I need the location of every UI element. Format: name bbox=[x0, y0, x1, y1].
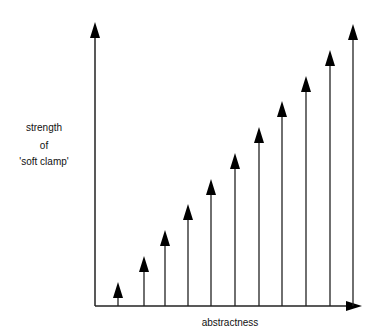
y-axis-arrowhead-icon bbox=[90, 22, 100, 38]
x-axis-label: abstractness bbox=[170, 317, 290, 328]
strength-arrowhead-icon bbox=[301, 76, 311, 92]
strength-arrows bbox=[113, 24, 358, 306]
strength-arrowhead-icon bbox=[325, 50, 335, 66]
strength-arrowhead-icon bbox=[183, 204, 193, 220]
strength-arrowhead-icon bbox=[113, 282, 123, 298]
strength-arrowhead-icon bbox=[230, 153, 240, 169]
axes bbox=[90, 22, 362, 311]
strength-arrowhead-icon bbox=[277, 101, 287, 117]
x-axis-arrowhead-icon bbox=[346, 301, 362, 311]
strength-arrowhead-icon bbox=[254, 127, 264, 143]
y-axis-label-line-2: of bbox=[4, 140, 84, 151]
strength-arrowhead-icon bbox=[160, 230, 170, 246]
y-axis-label-line-3: 'soft clamp' bbox=[4, 156, 84, 167]
y-axis-label-line-1: strength bbox=[4, 122, 84, 133]
soft-clamp-diagram bbox=[0, 0, 379, 336]
strength-arrowhead-icon bbox=[139, 256, 149, 272]
strength-arrowhead-icon bbox=[206, 179, 216, 195]
strength-arrowhead-icon bbox=[348, 24, 358, 40]
